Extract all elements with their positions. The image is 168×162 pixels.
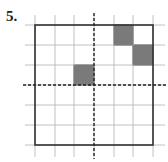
shaded-cell <box>114 25 133 45</box>
grid-figure <box>0 0 168 162</box>
shaded-cell <box>74 65 94 85</box>
shaded-cell <box>133 45 153 65</box>
